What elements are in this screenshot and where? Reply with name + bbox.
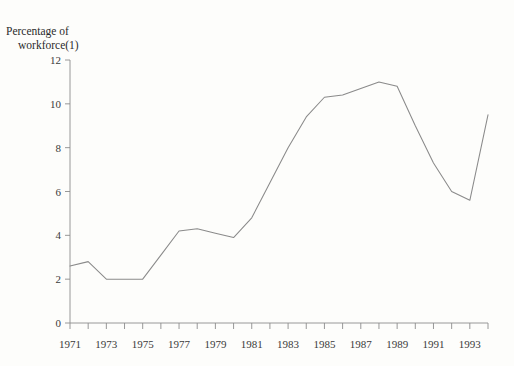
y-tick-label: 8 — [56, 142, 62, 154]
x-tick-label: 1993 — [459, 338, 482, 350]
x-tick-label: 1987 — [350, 338, 373, 350]
y-tick-label: 2 — [56, 273, 62, 285]
x-tick-label: 1971 — [59, 338, 81, 350]
chart-page: Percentage of workforce(1) 024681012 197… — [0, 0, 514, 366]
data-series-group — [70, 82, 488, 279]
y-tick-label: 12 — [50, 54, 61, 66]
data-line — [70, 82, 488, 279]
y-tick-label: 0 — [56, 317, 62, 329]
y-tick-label: 4 — [56, 229, 62, 241]
x-axis: 1971197319751977197919811983198519871989… — [59, 323, 488, 350]
x-tick-label: 1991 — [422, 338, 444, 350]
x-tick-label: 1989 — [386, 338, 409, 350]
x-tick-label: 1973 — [95, 338, 118, 350]
line-chart-plot: 024681012 197119731975197719791981198319… — [0, 0, 514, 366]
x-tick-label: 1981 — [241, 338, 263, 350]
y-axis: 024681012 — [50, 54, 70, 329]
x-tick-label: 1983 — [277, 338, 300, 350]
x-tick-label: 1975 — [132, 338, 155, 350]
x-tick-label: 1977 — [168, 338, 191, 350]
x-tick-label: 1979 — [204, 338, 227, 350]
y-tick-label: 10 — [50, 98, 62, 110]
y-tick-label: 6 — [56, 186, 62, 198]
x-tick-label: 1985 — [313, 338, 336, 350]
